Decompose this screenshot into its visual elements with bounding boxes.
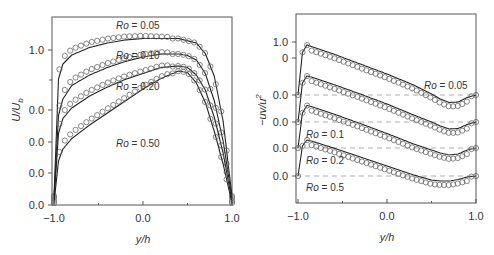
y-tick-label: 1.0 [273, 36, 288, 48]
data-marker [73, 97, 78, 102]
data-marker [84, 41, 89, 46]
data-marker [127, 72, 132, 77]
left-y-label-sub: b [16, 98, 25, 103]
data-marker [111, 102, 116, 107]
model-curve [298, 45, 476, 103]
left-plot-frame [52, 17, 232, 205]
figure: 1.00.00.00.00.0 Ro = 0.05Ro = 0.10Ro = 0… [0, 0, 494, 255]
data-marker [89, 39, 94, 44]
series-label: Ro = 0.05 [116, 20, 160, 31]
data-marker [62, 107, 67, 112]
data-marker [143, 33, 148, 38]
data-marker [464, 152, 469, 157]
data-marker [100, 82, 105, 87]
data-marker [138, 69, 143, 74]
data-marker [122, 74, 127, 79]
right-y-label-main: −uv/u [256, 99, 268, 126]
data-marker [116, 35, 121, 40]
data-marker [138, 33, 143, 38]
right-panel: 1.000.00.00.00.0 Ro = 0.05Ro = 0.1Ro = 0… [254, 14, 484, 243]
y-tick-label: 0.0 [273, 116, 288, 128]
data-marker [143, 67, 148, 72]
data-marker [95, 64, 100, 69]
x-tick-label: 1.0 [468, 210, 483, 222]
data-marker [122, 96, 127, 101]
data-marker [73, 45, 78, 50]
data-marker [132, 71, 137, 76]
data-marker [116, 99, 121, 104]
right-y-ticks: 1.000.00.00.00.0 [273, 36, 296, 182]
data-marker [84, 69, 89, 74]
y-tick-label: 0 [282, 52, 288, 64]
data-marker [73, 75, 78, 80]
data-marker [105, 60, 110, 65]
data-marker [78, 123, 83, 128]
series-label: Ro = 0.10 [116, 50, 160, 61]
data-marker [95, 113, 100, 118]
data-marker [89, 116, 94, 121]
x-tick-label: 0.0 [135, 212, 150, 224]
series-label: Ro = 0.20 [116, 81, 160, 92]
data-marker [111, 35, 116, 40]
data-marker [62, 87, 67, 92]
left-y-ticks: 1.00.00.00.00.0 [29, 44, 52, 211]
y-tick-label: 0.0 [29, 167, 44, 179]
series-label: Ro = 0.5 [306, 182, 345, 193]
data-marker [105, 36, 110, 41]
data-marker [95, 85, 100, 90]
data-marker [78, 43, 83, 48]
x-tick-label: 1.0 [224, 212, 239, 224]
left-y-label-main: U/U [10, 103, 22, 122]
series-label: Ro = 0.05 [424, 80, 468, 91]
data-marker [464, 178, 469, 183]
data-marker [62, 53, 67, 58]
right-y-label-sup: 2 [254, 94, 263, 100]
series-label: Ro = 0.50 [116, 138, 160, 149]
model-curve [54, 39, 232, 197]
data-marker [68, 132, 73, 137]
x-tick-label: −1.0 [43, 212, 65, 224]
data-marker [78, 72, 83, 77]
y-tick-label: 0.0 [29, 199, 44, 211]
right-x-axis-label: y/h [379, 231, 395, 243]
data-marker [68, 48, 73, 53]
left-x-axis-label: y/h [135, 233, 151, 245]
y-tick-label: 1.0 [29, 44, 44, 56]
data-marker [68, 101, 73, 106]
x-tick-label: −1.0 [287, 210, 309, 222]
data-marker [127, 92, 132, 97]
data-marker [100, 37, 105, 42]
data-marker [105, 106, 110, 111]
series-label: Ro = 0.1 [306, 129, 345, 140]
data-marker [73, 127, 78, 132]
data-marker [127, 34, 132, 39]
y-tick-label: 0.0 [29, 136, 44, 148]
data-marker [95, 38, 100, 43]
data-marker [89, 66, 94, 71]
x-tick-label: 0.0 [379, 210, 394, 222]
right-x-ticks: −1.00.01.0 [287, 199, 484, 222]
right-y-axis-label: −uv/u2 [254, 94, 268, 126]
data-marker [84, 90, 89, 95]
left-y-axis-label: U/Ub [10, 98, 25, 122]
data-marker [122, 34, 127, 39]
y-tick-label: 0.0 [273, 170, 288, 182]
y-tick-label: 0.0 [273, 142, 288, 154]
y-tick-label: 0.0 [273, 89, 288, 101]
svg-text:−uv/u2: −uv/u2 [254, 94, 268, 126]
data-marker [78, 94, 83, 99]
data-marker [464, 126, 469, 131]
data-marker [132, 34, 137, 39]
data-marker [62, 138, 67, 143]
data-marker [100, 109, 105, 114]
data-marker [464, 99, 469, 104]
svg-text:U/Ub: U/Ub [10, 98, 25, 122]
left-x-ticks: −1.00.01.0 [43, 201, 240, 224]
series-label: Ro = 0.2 [306, 155, 345, 166]
data-marker [68, 79, 73, 84]
data-marker [84, 120, 89, 125]
left-panel: 1.00.00.00.00.0 Ro = 0.05Ro = 0.10Ro = 0… [10, 17, 240, 245]
data-marker [105, 80, 110, 85]
y-tick-label: 0.0 [29, 104, 44, 116]
data-marker [89, 87, 94, 92]
